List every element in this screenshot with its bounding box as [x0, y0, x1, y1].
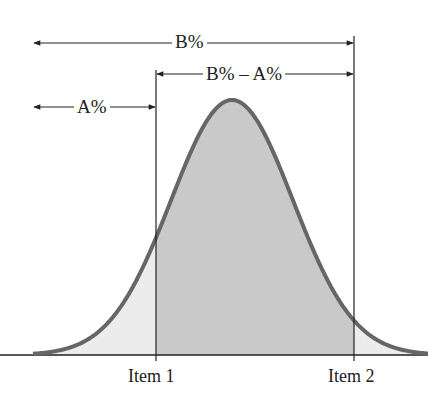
x-tick-item1: Item 1: [128, 366, 175, 386]
x-tick-item2: Item 2: [328, 366, 375, 386]
b-minus-a-label: B% – A%: [203, 64, 285, 84]
a-percent-label: A%: [74, 97, 110, 117]
normal-distribution-diagram: [0, 0, 428, 400]
shaded-area-between-items: [156, 100, 354, 355]
b-percent-label: B%: [172, 32, 207, 52]
